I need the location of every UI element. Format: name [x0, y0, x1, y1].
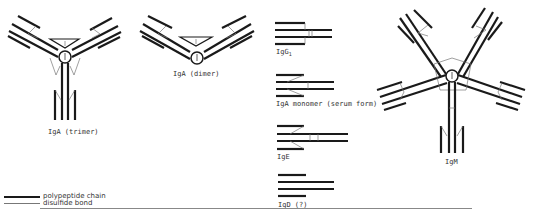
label-igg1-subscript: 1: [289, 51, 292, 57]
label-ige: IgE: [277, 153, 290, 161]
label-iga-trimer: IgA (trimer): [48, 128, 99, 136]
igg1-structure: [275, 23, 332, 44]
immunoglobulin-diagram: [0, 0, 533, 216]
legend-disulfide-swatch: [4, 203, 40, 204]
label-iga-dimer: IgA (dimer): [173, 70, 219, 78]
iga-trimer-right-arm: [72, 18, 121, 57]
legend-disulfide-label: disulfide bond: [43, 199, 92, 207]
ige-structure: [277, 126, 348, 149]
label-igg1: IgG1: [276, 48, 292, 58]
label-igg1-text: IgG: [276, 48, 289, 56]
label-igm: IgM: [445, 158, 458, 166]
iga-monomer-structure: [276, 75, 334, 96]
bottom-rule: [40, 208, 472, 209]
iga-trimer-left-arm: [8, 16, 58, 57]
iga-trimer-structure: [8, 16, 121, 120]
igd-structure: [278, 175, 334, 196]
igm-structure: [377, 8, 525, 153]
iga-trimer-stem: [55, 63, 75, 120]
label-iga-monomer: IgA monomer (serum form): [276, 100, 377, 108]
legend-polypeptide-swatch: [4, 196, 40, 198]
iga-dimer-structure: [140, 16, 254, 64]
